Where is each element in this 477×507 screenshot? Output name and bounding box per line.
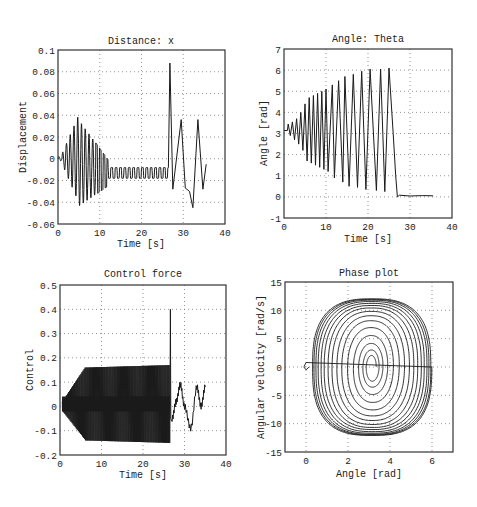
x-tick-label: 40 <box>219 228 231 239</box>
y-tick-label: 4 <box>275 108 281 119</box>
y-tick-label: -10 <box>265 419 282 430</box>
x-tick-label: 30 <box>178 228 190 239</box>
y-tick-label: -0.1 <box>34 426 57 437</box>
x-tick-label: 2 <box>345 456 351 467</box>
y-tick-label: 0.4 <box>40 305 57 316</box>
y-tick-labels: -101234567 <box>270 45 282 225</box>
subplot-theta: Angle: Theta -101234567 010203040 Time [… <box>259 34 458 245</box>
x-tick-label: 30 <box>404 222 416 233</box>
x-tick-label: 10 <box>94 228 106 239</box>
y-tick-label: 0.3 <box>40 329 57 340</box>
x-tick-labels: 010203040 <box>55 228 231 239</box>
y-tick-label: 0 <box>275 192 281 203</box>
y-tick-labels: -0.06-0.04-0.0200.020.040.060.080.1 <box>26 46 55 231</box>
subplot-distance: Distance: x -0.06-0.04-0.0200.020.040.06… <box>18 36 231 250</box>
y-tick-label: 6 <box>275 66 281 77</box>
y-tick-label: 0.04 <box>32 111 55 122</box>
x-tick-label: 0 <box>281 222 287 233</box>
x-tick-label: 20 <box>136 228 148 239</box>
subplot-control-force: Control force -0.2-0.100.10.20.30.40.5 0… <box>25 269 232 481</box>
x-tick-label: 10 <box>320 222 332 233</box>
y-tick-label: 5 <box>275 87 281 98</box>
y-tick-label: 1 <box>275 171 281 182</box>
y-tick-label: 0.1 <box>38 46 55 57</box>
y-axis-label: Angular velocity [rad/s] <box>256 295 267 439</box>
subplot-title: Angle: Theta <box>332 34 404 45</box>
data-line <box>284 68 433 197</box>
subplot-title: Distance: x <box>108 36 174 47</box>
x-tick-label: 4 <box>387 456 393 467</box>
x-tick-label: 20 <box>362 222 374 233</box>
x-axis-label: Time [s] <box>117 239 165 250</box>
y-tick-labels: -0.2-0.100.10.20.30.40.5 <box>34 281 57 462</box>
data-line <box>62 309 205 443</box>
y-tick-label: 2 <box>275 150 281 161</box>
subplot-phase-plot: Phase plot -15-10-5051015 0246 Angle [ra… <box>256 268 453 480</box>
y-tick-label: -0.2 <box>34 451 57 462</box>
y-tick-label: 5 <box>276 334 282 345</box>
x-tick-label: 0 <box>57 459 63 470</box>
x-axis-label: Angle [rad] <box>336 469 402 480</box>
x-tick-labels: 010203040 <box>57 459 232 470</box>
y-axis-label: Control <box>25 349 36 391</box>
y-tick-labels: -15-10-5051015 <box>265 278 282 459</box>
data-line <box>58 63 206 208</box>
y-tick-label: 0.08 <box>32 67 55 78</box>
y-tick-label: 0.2 <box>40 353 57 364</box>
x-tick-label: 0 <box>55 228 61 239</box>
y-tick-label: 0 <box>276 363 282 374</box>
y-tick-label: 0.06 <box>32 89 55 100</box>
x-tick-label: 6 <box>429 456 435 467</box>
x-tick-label: 20 <box>137 459 149 470</box>
x-tick-labels: 0246 <box>303 456 435 467</box>
y-tick-label: -0.02 <box>26 176 55 187</box>
x-tick-label: 30 <box>179 459 191 470</box>
x-tick-labels: 010203040 <box>281 222 458 233</box>
y-tick-label: 0 <box>51 402 57 413</box>
y-tick-label: -1 <box>270 214 282 225</box>
figure-canvas: Distance: x -0.06-0.04-0.0200.020.040.06… <box>0 0 477 507</box>
y-tick-label: 0.5 <box>40 281 57 292</box>
y-tick-label: 15 <box>271 278 283 289</box>
y-tick-label: -5 <box>271 391 283 402</box>
y-axis-label: Displacement <box>18 101 29 173</box>
x-axis-label: Time [s] <box>119 470 167 481</box>
x-tick-label: 10 <box>96 459 108 470</box>
y-tick-label: 10 <box>271 306 283 317</box>
data-line <box>304 299 432 436</box>
y-tick-label: 3 <box>275 129 281 140</box>
subplot-title: Phase plot <box>339 268 399 279</box>
y-tick-label: -0.04 <box>26 198 55 209</box>
y-axis-label: Angle [rad] <box>259 100 270 166</box>
y-tick-label: 0 <box>49 154 55 165</box>
y-tick-label: 7 <box>275 45 281 56</box>
x-tick-label: 40 <box>220 459 232 470</box>
y-tick-label: -0.06 <box>26 220 55 231</box>
subplot-title: Control force <box>104 269 182 280</box>
y-tick-label: -15 <box>265 448 282 459</box>
x-tick-label: 40 <box>446 222 458 233</box>
x-tick-label: 0 <box>303 456 309 467</box>
y-tick-label: 0.02 <box>32 133 55 144</box>
x-axis-label: Time [s] <box>344 234 392 245</box>
y-tick-label: 0.1 <box>40 378 57 389</box>
